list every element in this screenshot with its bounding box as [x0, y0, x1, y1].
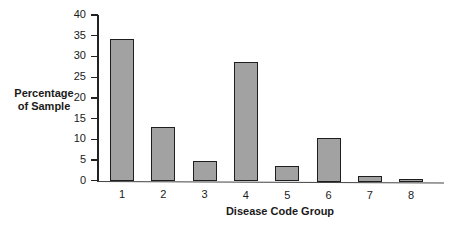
- bar-3: [193, 161, 217, 181]
- bar-7: [358, 176, 382, 182]
- y-tick-label: 5: [66, 153, 86, 165]
- x-tick-label: 3: [195, 188, 215, 200]
- y-tick-mark: [91, 118, 98, 119]
- bar-1: [110, 39, 134, 181]
- x-tick-label: 8: [401, 189, 421, 201]
- y-tick-mark: [91, 14, 98, 15]
- y-tick-mark: [91, 139, 98, 140]
- y-tick-label: 10: [66, 132, 86, 144]
- y-tick-label: 20: [66, 91, 86, 103]
- x-tick-label: 5: [277, 189, 297, 201]
- y-tick-label: 35: [66, 29, 86, 41]
- bar-5: [275, 166, 299, 182]
- x-tick-label: 1: [112, 188, 132, 200]
- y-tick-label: 0: [66, 174, 86, 186]
- bar-2: [151, 127, 175, 181]
- bar-8: [399, 179, 423, 182]
- x-axis-line: [97, 181, 444, 184]
- y-tick-mark: [91, 56, 98, 57]
- y-tick-label: 15: [66, 112, 86, 124]
- y-tick-label: 25: [66, 70, 86, 82]
- x-axis-label: Disease Code Group: [150, 205, 410, 217]
- bar-4: [234, 62, 258, 181]
- y-tick-label: 30: [66, 49, 86, 61]
- y-tick-mark: [91, 35, 98, 36]
- x-tick-label: 7: [360, 189, 380, 201]
- bar-6: [317, 138, 341, 182]
- y-tick-mark: [91, 180, 98, 181]
- y-tick-mark: [91, 159, 98, 160]
- y-tick-mark: [91, 77, 98, 78]
- bar-chart: Percentage of Sample 0510152025303540 12…: [0, 0, 460, 227]
- y-tick-mark: [91, 97, 98, 98]
- x-tick-label: 4: [236, 189, 256, 201]
- x-tick-label: 6: [319, 189, 339, 201]
- x-tick-label: 2: [153, 188, 173, 200]
- y-tick-label: 40: [66, 8, 86, 20]
